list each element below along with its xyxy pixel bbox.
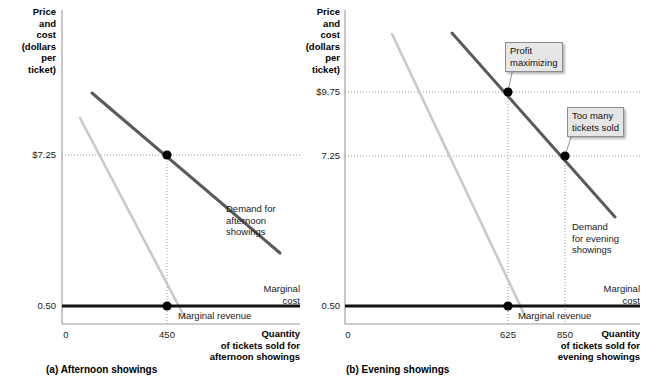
marginal-revenue-label: Marginal revenue: [178, 310, 288, 322]
demand-curve-label: Demand for evening showings: [572, 221, 640, 256]
marker-mr-equals-mc: [162, 301, 171, 310]
chart-panel-afternoon: Price and cost (dollars per ticket) $7.2…: [0, 0, 331, 388]
x-tick-label-0: 0: [59, 329, 73, 341]
marginal-revenue-curve: [80, 118, 185, 318]
marker-profit-maximizing: [503, 87, 512, 96]
marker-too-many-tickets: [560, 151, 569, 160]
x-tick-label-450: 450: [153, 329, 181, 341]
marginal-cost-label: Marginal cost: [583, 283, 640, 306]
marginal-revenue-curve: [392, 34, 526, 318]
x-axis-title: Quantity of tickets sold for evening sho…: [526, 328, 640, 363]
panel-caption-afternoon: (a) Afternoon showings: [46, 364, 246, 376]
marginal-cost-label: Marginal cost: [243, 283, 300, 306]
callout-too-many-tickets: Too many tickets sold: [567, 107, 624, 137]
y-tick-label-725: $7.25: [4, 149, 56, 161]
y-tick-label-725: 7.25: [300, 150, 340, 162]
demand-curve-label: Demand for afternoon showings: [226, 203, 300, 238]
x-axis-title: Quantity of tickets sold for afternoon s…: [186, 328, 300, 363]
y-tick-label-050: 0.50: [300, 300, 340, 312]
marginal-revenue-label: Marginal revenue: [518, 310, 628, 322]
y-axis-title: Price and cost (dollars per ticket): [0, 6, 56, 75]
x-tick-label-625: 625: [494, 329, 522, 341]
y-tick-label-050: 0.50: [4, 300, 56, 312]
x-tick-label-0: 0: [341, 329, 355, 341]
callout-profit-maximizing: Profit maximizing: [505, 42, 563, 72]
marker-price-point: [162, 150, 171, 159]
panel-caption-evening: (b) Evening showings: [346, 364, 546, 376]
chart-panel-evening: Price and cost (dollars per ticket) $9.7…: [300, 0, 631, 388]
y-tick-label-975: $9.75: [300, 86, 340, 98]
marker-mr-equals-mc: [503, 301, 512, 310]
y-axis-title: Price and cost (dollars per ticket): [300, 6, 340, 75]
figure-container: Price and cost (dollars per ticket) $7.2…: [0, 0, 663, 388]
